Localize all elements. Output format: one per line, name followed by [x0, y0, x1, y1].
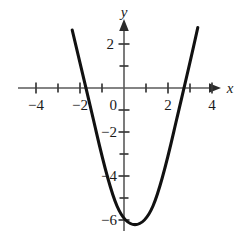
graph-figure: −4 −2 2 4 2 0 −2 −4 −6 y x — [0, 0, 240, 237]
parabola-curve — [72, 28, 198, 225]
x-label-4: 4 — [208, 97, 216, 113]
x-label-neg4: −4 — [28, 97, 44, 113]
y-label-neg6: −6 — [101, 212, 117, 228]
y-label-2: 2 — [107, 36, 115, 52]
parabola-plot: −4 −2 2 4 2 0 −2 −4 −6 y x — [0, 0, 240, 237]
x-label-neg2: −2 — [72, 97, 88, 113]
x-axis-arrowhead — [209, 83, 221, 93]
origin-label-0: 0 — [110, 97, 118, 113]
x-label-2: 2 — [164, 97, 172, 113]
y-axis-arrowhead — [119, 19, 129, 31]
x-axis-label: x — [226, 80, 234, 96]
y-label-neg4: −4 — [101, 168, 117, 184]
y-label-neg2: −2 — [101, 124, 117, 140]
y-axis-label: y — [119, 4, 128, 20]
